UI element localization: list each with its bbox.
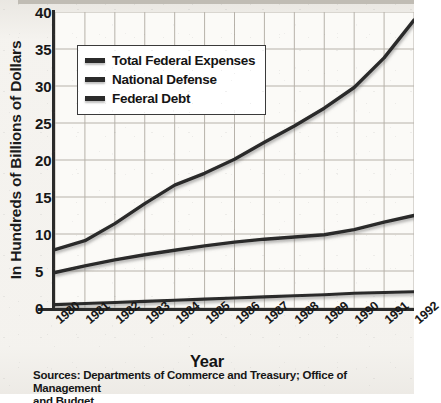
legend-item-total-federal-expenses: Total Federal Expenses (85, 51, 258, 70)
y-axis-line (52, 10, 55, 310)
legend-label: Total Federal Expenses (112, 53, 255, 68)
x-tick-label: 1992 (412, 299, 441, 327)
legend-item-federal-debt: Federal Debt (85, 89, 258, 108)
chart-legend: Total Federal Expenses National Defense … (77, 45, 266, 115)
source-line-1: Sources: Departments of Commerce and Tre… (33, 369, 347, 394)
legend-item-national-defense: National Defense (85, 70, 258, 89)
legend-swatch-icon (85, 58, 105, 63)
source-line-2: and Budget (33, 395, 408, 403)
legend-label: National Defense (112, 72, 217, 87)
figure-top-border (18, 0, 414, 4)
source-note: Sources: Departments of Commerce and Tre… (33, 369, 408, 403)
x-axis-tick-labels: 1980198119821983198419851986198719881989… (0, 316, 414, 352)
y-axis-title: In Hundreds of Billions of Dollars (7, 0, 25, 320)
legend-label: Federal Debt (112, 91, 190, 106)
legend-swatch-icon (85, 96, 105, 101)
legend-swatch-icon (85, 77, 105, 82)
